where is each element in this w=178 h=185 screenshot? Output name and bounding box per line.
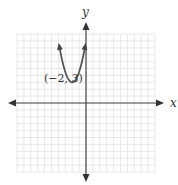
vertex-label: (−2, 3) [44, 72, 83, 85]
coordinate-plane: y x (−2, 3) [0, 0, 178, 185]
x-axis-label: x [170, 96, 177, 110]
y-axis-bottom-arrow-icon [83, 174, 90, 182]
x-axis-right-arrow-icon [156, 100, 164, 107]
curve-left-arrow-icon [57, 43, 63, 50]
x-axis-left-arrow-icon [8, 100, 16, 107]
y-axis-top-arrow-icon [83, 22, 90, 30]
y-axis-label: y [81, 5, 89, 19]
